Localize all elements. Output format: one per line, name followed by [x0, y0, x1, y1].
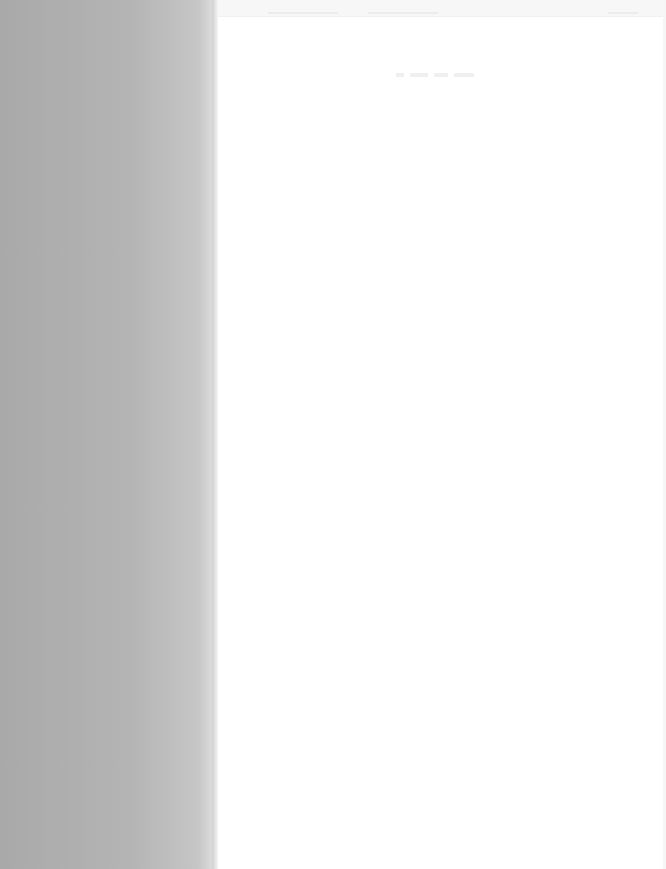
toolbar-segment [268, 12, 338, 14]
faint-heading-line [396, 72, 494, 78]
faint-glyph [410, 73, 428, 77]
toolbar-segment [608, 12, 638, 14]
faint-glyph [396, 73, 404, 77]
toolbar-segment [368, 12, 438, 14]
faint-glyph [434, 73, 448, 77]
faint-glyph [454, 73, 474, 77]
main-content-area [218, 0, 666, 869]
top-toolbar [218, 0, 666, 17]
sidebar-panel [0, 0, 216, 869]
